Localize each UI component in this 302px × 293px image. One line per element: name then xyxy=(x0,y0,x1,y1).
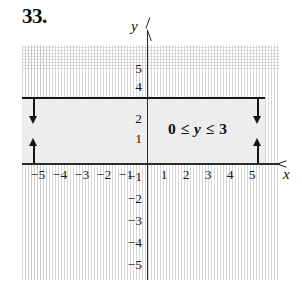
right-down-arrow-icon xyxy=(253,99,262,125)
arrow-shaft xyxy=(257,145,259,163)
x-tick-label-pos-3: 3 xyxy=(197,168,219,182)
y-tick-label-pos-3: 2 xyxy=(122,112,142,126)
figure-container: 33. y x −5−4−3−2−112345542 xyxy=(0,0,302,293)
y-tick-label-pos-4: 1 xyxy=(122,132,142,146)
arrow-head xyxy=(29,138,37,146)
x-tick-label-pos-4: 4 xyxy=(219,168,241,182)
arrow-shaft xyxy=(33,99,35,117)
y-axis xyxy=(147,30,149,280)
coordinate-plane: y x −5−4−3−2−1123455421−1−2−3−4−5 0 ≤ y … xyxy=(0,0,302,293)
inequality-relation-right: ≤ xyxy=(206,120,215,137)
y-tick-label-neg-1: −1 xyxy=(122,170,142,184)
y-axis-label: y xyxy=(131,18,138,35)
x-tick-label-neg-1: −5 xyxy=(27,168,49,182)
y-tick-label-neg-4: −4 xyxy=(122,236,142,250)
x-tick-label-neg-2: −4 xyxy=(49,168,71,182)
x-tick-label-pos-5: 5 xyxy=(241,168,263,182)
left-up-arrow-icon xyxy=(29,137,38,163)
shaded-solution-region xyxy=(22,98,265,164)
inequality-annotation: 0 ≤ y ≤ 3 xyxy=(168,120,227,138)
x-tick-label-neg-4: −2 xyxy=(93,168,115,182)
x-axis xyxy=(22,163,280,165)
y-tick-label-neg-3: −3 xyxy=(122,214,142,228)
x-tick-label-neg-3: −3 xyxy=(71,168,93,182)
arrow-head xyxy=(29,116,37,124)
left-down-arrow-icon xyxy=(29,99,38,125)
x-tick-label-pos-1: 1 xyxy=(153,168,175,182)
upper-boundary-line xyxy=(22,97,265,99)
arrow-head xyxy=(253,116,261,124)
y-tick-label-neg-5: −5 xyxy=(122,258,142,272)
inequality-relation-left: ≤ xyxy=(181,120,190,137)
arrow-shaft xyxy=(33,145,35,163)
y-tick-label-pos-2: 4 xyxy=(122,80,142,94)
arrow-shaft xyxy=(257,99,259,117)
arrow-head xyxy=(253,138,261,146)
x-axis-label: x xyxy=(283,166,290,183)
inequality-lower-bound: 0 xyxy=(168,120,176,137)
y-tick-label-neg-2: −2 xyxy=(122,192,142,206)
inequality-variable: y xyxy=(194,120,201,137)
inequality-upper-bound: 3 xyxy=(219,120,227,137)
right-up-arrow-icon xyxy=(253,137,262,163)
y-tick-label-pos-1: 5 xyxy=(122,62,142,76)
x-tick-label-pos-2: 2 xyxy=(175,168,197,182)
